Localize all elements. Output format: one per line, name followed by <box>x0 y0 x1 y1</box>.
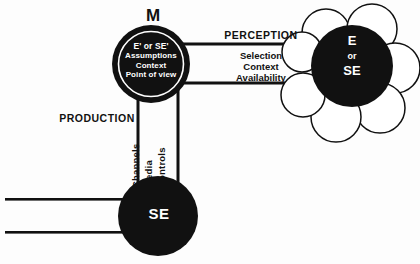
production-item-0: Channels <box>130 144 141 188</box>
m-node-line-3: Point of view <box>112 70 190 80</box>
se-node-label: SE <box>128 205 190 223</box>
diagram-canvas: M E' or SE' Assumptions Context Point of… <box>0 0 420 264</box>
production-item-2: Controls <box>156 147 167 188</box>
m-node-line-2: Context <box>112 61 190 71</box>
production-item-1: Media <box>143 160 154 188</box>
perception-channel-items: Selection Context Availability <box>206 50 316 84</box>
m-node-line-0: E' or SE' <box>112 41 190 51</box>
production-channel-items: Channels Media Controls <box>117 122 183 188</box>
perception-item-0: Selection <box>206 50 316 61</box>
ese-node-line-2: SE <box>322 62 382 80</box>
ese-node-content: E or SE <box>322 32 382 79</box>
m-node-content: E' or SE' Assumptions Context Point of v… <box>112 41 190 80</box>
ese-node-line-0: E <box>322 32 382 50</box>
perception-item-1: Context <box>206 61 316 72</box>
perception-channel-title: PERCEPTION <box>206 29 316 41</box>
perception-item-2: Availability <box>206 72 316 83</box>
ese-node-line-1: or <box>322 50 382 62</box>
m-node-title: M <box>0 6 420 26</box>
m-node-line-1: Assumptions <box>112 51 190 61</box>
